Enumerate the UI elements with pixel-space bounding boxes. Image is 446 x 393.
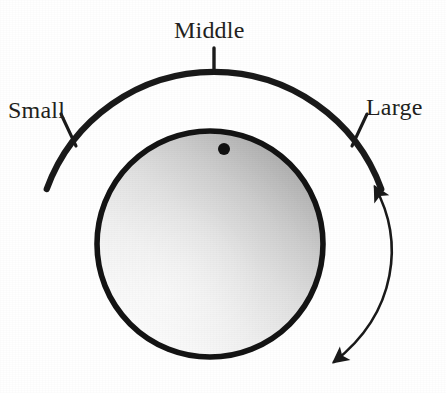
knob-indicator-dot (218, 143, 230, 155)
scale-label-large: Large (366, 95, 423, 119)
knob-group (97, 131, 323, 357)
scale-label-small: Small (8, 98, 65, 122)
figure-canvas: Small Middle Large (0, 0, 446, 393)
rotation-arrow (334, 187, 392, 362)
rotation-arrow-group (334, 187, 392, 362)
knob-diagram-svg (0, 0, 446, 393)
tick-large (352, 114, 367, 146)
scale-label-middle: Middle (174, 18, 245, 42)
